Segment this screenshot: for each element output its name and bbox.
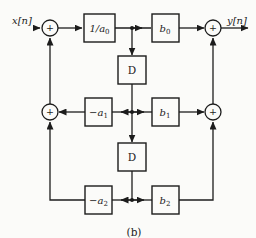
adder-mid-right: + [205,104,221,120]
branch-dot-bottom [130,198,134,202]
block-diagram: + + + + 1/a0 b0 D −a1 b1 D −a2 [0,0,256,238]
adder-top-right-plus: + [209,22,217,33]
figure-caption: (b) [127,226,142,238]
block-delay1-label: D [128,64,136,76]
adder-mid-right-plus: + [209,106,217,117]
block-delay1: D [118,56,146,84]
figure-canvas: + + + + 1/a0 b0 D −a1 b1 D −a2 [0,0,256,238]
block-b1: b1 [152,98,179,126]
wire-nega2-to-adder3 [50,122,85,200]
block-neg-a1: −a1 [85,98,112,126]
block-delay2: D [118,143,146,171]
block-delay2-label: D [128,151,136,163]
output-label: y[n] [226,15,247,26]
adder-top-left: + [42,20,58,36]
block-b2: b2 [152,186,179,214]
wire-b2-to-adder4 [179,122,213,200]
adder-mid-left: + [42,104,58,120]
block-inv-a0: 1/a0 [84,14,115,42]
block-b0: b0 [152,14,179,42]
block-neg-a2: −a2 [85,186,112,214]
branch-dot-top [130,26,134,30]
input-label: x[n] [12,15,32,26]
adder-top-left-plus: + [46,22,54,33]
adder-mid-left-plus: + [46,106,54,117]
branch-dot-middle [130,110,134,114]
adder-top-right: + [205,20,221,36]
